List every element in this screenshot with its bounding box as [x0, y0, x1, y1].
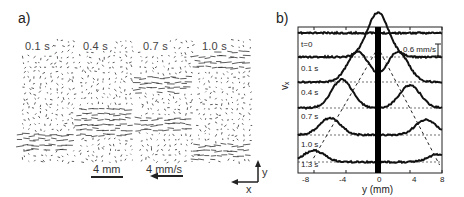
- x-tick-label: 4: [412, 175, 416, 184]
- x-tick-label: 0: [377, 175, 381, 184]
- trace-label-0-4s: 0.4 s: [301, 88, 318, 97]
- velocity-profile-plot: [0, 0, 464, 197]
- x-axis-label: y (mm): [362, 184, 393, 195]
- trace-label-0-1s: 0.1 s: [301, 64, 318, 73]
- trace-label-1-3s: 1.3 s: [301, 160, 318, 169]
- x-tick-label: -8: [302, 175, 309, 184]
- trace-label-t0: t=0: [301, 40, 312, 49]
- trace-label-1-0s: 1.0 s: [301, 140, 318, 149]
- x-tick-label: -4: [339, 175, 346, 184]
- y-axis-label: vₓ: [279, 82, 290, 90]
- velocity-scale-bar-label: 0.6 mm/s: [403, 45, 436, 54]
- trace-label-0-7s: 0.7 s: [301, 112, 318, 121]
- x-tick-label: 8: [440, 175, 444, 184]
